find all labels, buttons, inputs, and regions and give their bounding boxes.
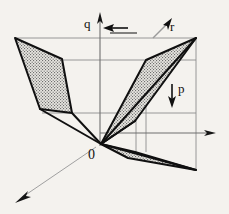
origin-label: 0 — [88, 148, 95, 162]
axis-label-p: p — [178, 82, 185, 95]
edge-origin-to-left-low — [40, 109, 101, 144]
depth-axis — [24, 147, 96, 196]
axis-label-r: r — [170, 20, 174, 33]
axis-label-q: q — [84, 17, 91, 30]
figure-container: q r p 0 — [0, 0, 229, 214]
diagram-canvas — [0, 0, 229, 214]
edge-origin-to-left-upper — [72, 113, 101, 144]
left-shaded-panel — [15, 38, 72, 113]
edge-origin-to-lower-right — [101, 144, 196, 170]
